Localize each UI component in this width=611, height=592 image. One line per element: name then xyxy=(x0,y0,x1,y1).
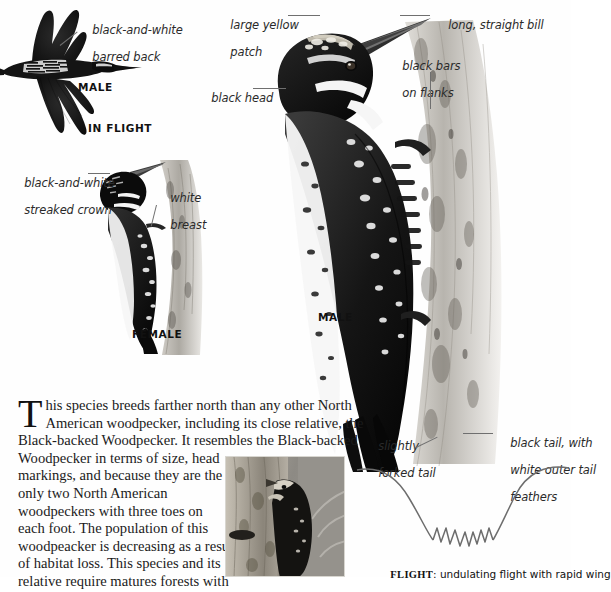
label-white-breast: white breast xyxy=(156,178,206,246)
label-streaked-crown-line2: streaked crown xyxy=(24,203,111,217)
body-line-2: American woodpecker, including its close… xyxy=(18,415,363,433)
leader-black-head xyxy=(253,88,286,89)
label-yellow-patch-line2: patch xyxy=(230,45,262,59)
flight-path-diagram xyxy=(355,458,571,554)
caption-flight-male: MALE xyxy=(78,81,113,93)
drop-cap: T xyxy=(18,397,44,429)
label-black-bars-flanks: black bars on flanks xyxy=(388,46,460,114)
label-black-bars-line2: on flanks xyxy=(402,86,453,100)
label-black-tail-line1: black tail, with xyxy=(510,436,592,450)
leader-black-bars-flanks xyxy=(430,72,431,109)
label-forked-tail-line1: slightly xyxy=(378,439,419,453)
flight-caption-text: : undulating flight with rapid wing xyxy=(433,568,611,580)
caption-female: FEMALE xyxy=(132,328,182,340)
label-barred-back: black-and-white barred back xyxy=(78,10,183,78)
label-black-head-line1: black head xyxy=(211,91,273,105)
label-black-bars-line1: black bars xyxy=(402,59,460,73)
leader-streaked-crown xyxy=(88,173,110,174)
label-white-breast-line2: breast xyxy=(170,218,206,232)
caption-male-main: MALE xyxy=(318,311,353,323)
label-streaked-crown-line1: black-and-white xyxy=(24,176,114,190)
habitat-photograph xyxy=(225,456,345,577)
label-white-breast-line1: white xyxy=(170,191,201,205)
flight-caption: FLIGHT: undulating flight with rapid win… xyxy=(377,556,611,592)
body-line-1: his species breeds farther north than an… xyxy=(18,397,363,415)
label-yellow-patch: large yellow patch xyxy=(216,5,299,73)
label-long-bill-line1: long, straight bill xyxy=(448,18,543,32)
leader-black-tail xyxy=(463,433,493,434)
flight-caption-label: FLIGHT xyxy=(390,569,433,580)
label-barred-back-line1: black-and-white xyxy=(92,23,182,37)
leader-yellow-patch xyxy=(288,15,320,16)
label-barred-back-line2: barred back xyxy=(92,50,160,64)
label-yellow-patch-line1: large yellow xyxy=(230,18,299,32)
label-black-head: black head xyxy=(197,78,273,119)
leader-long-bill xyxy=(400,15,430,16)
label-long-bill: long, straight bill xyxy=(434,5,544,46)
body-line-3: Black-backed Woodpecker. It resembles th… xyxy=(18,432,363,450)
caption-in-flight: IN FLIGHT xyxy=(88,122,152,134)
